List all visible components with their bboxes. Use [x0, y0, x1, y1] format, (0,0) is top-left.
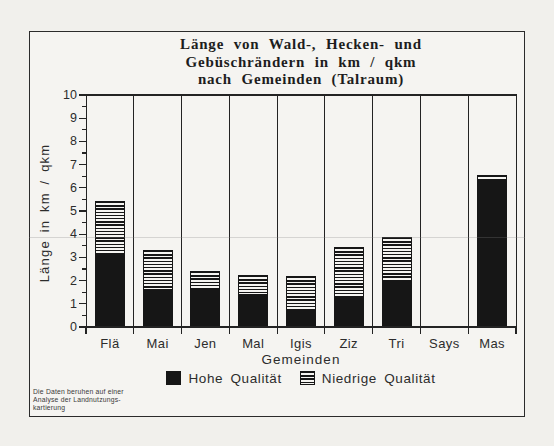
x-axis-tick: [85, 327, 86, 334]
bar-segment-hohe-qualitaet: [477, 182, 507, 327]
y-axis-tick: [79, 210, 86, 211]
x-axis-title: Gemeinden: [86, 352, 516, 367]
striped-swatch-icon: [300, 371, 315, 385]
y-tick-label: 10: [50, 88, 77, 102]
y-tick-label: 0: [50, 320, 77, 334]
bar-segment-niedrige-qualitaet: [477, 175, 507, 182]
scan-artifact-line: [29, 237, 525, 238]
y-axis-minor-tick: [82, 292, 86, 293]
y-tick-label: 6: [50, 181, 77, 195]
y-axis-tick: [79, 234, 86, 235]
y-axis-tick: [79, 164, 86, 165]
footnote-line3: kartierung: [33, 404, 124, 412]
y-tick-label: 9: [50, 111, 77, 125]
x-axis-tick: [324, 327, 325, 334]
chart-title: Länge von Wald-, Hecken- und Gebüschränd…: [110, 36, 492, 89]
y-axis-minor-tick: [82, 268, 86, 269]
bar-segment-hohe-qualitaet: [238, 295, 268, 327]
bar-segment-niedrige-qualitaet: [190, 271, 220, 290]
y-tick-label: 4: [50, 227, 77, 241]
bar-segment-niedrige-qualitaet: [286, 276, 316, 310]
y-axis-tick: [79, 187, 86, 188]
x-axis-baseline: [85, 326, 517, 328]
plot-cell-divider: [468, 95, 469, 327]
x-axis-tick: [181, 327, 182, 334]
x-tick-label: Flä: [86, 336, 134, 351]
chart-title-line3: nach Gemeinden (Talraum): [110, 71, 492, 89]
y-axis-tick: [79, 118, 86, 119]
plot-cell-divider: [420, 95, 421, 327]
y-axis-minor-tick: [82, 129, 86, 130]
plot-cell-divider: [133, 95, 134, 327]
legend: Hohe Qualität Niedrige Qualität: [86, 370, 516, 386]
solid-black-swatch-icon: [166, 371, 181, 385]
y-axis-tick: [79, 257, 86, 258]
x-tick-label: Mai: [134, 336, 182, 351]
legend-item-niedrige-qualitaet: Niedrige Qualität: [300, 371, 436, 386]
plot-cell-divider: [324, 95, 325, 327]
x-tick-label: Ziz: [325, 336, 373, 351]
y-axis-minor-tick: [82, 106, 86, 107]
y-axis-minor-tick: [82, 222, 86, 223]
y-tick-label: 3: [50, 250, 77, 264]
y-axis-minor-tick: [82, 315, 86, 316]
x-tick-label: Tri: [373, 336, 421, 351]
chart-page: Länge von Wald-, Hecken- und Gebüschränd…: [0, 0, 554, 446]
bar-segment-niedrige-qualitaet: [95, 201, 125, 256]
x-tick-label: Igis: [277, 336, 325, 351]
chart-title-line1: Länge von Wald-, Hecken- und: [110, 36, 492, 54]
bar-segment-niedrige-qualitaet: [382, 237, 412, 281]
x-axis-tick: [468, 327, 469, 334]
y-axis-tick: [79, 141, 86, 142]
bar-segment-niedrige-qualitaet: [143, 250, 173, 289]
x-tick-label: Jen: [182, 336, 230, 351]
plot-cell-divider: [277, 95, 278, 327]
plot-cell-divider: [372, 95, 373, 327]
legend-item-hohe-qualitaet: Hohe Qualität: [166, 371, 281, 386]
x-tick-label: Says: [420, 336, 468, 351]
x-tick-label: Mas: [468, 336, 516, 351]
plot-top-border: [85, 94, 517, 96]
bar-segment-niedrige-qualitaet: [238, 275, 268, 295]
bar-segment-niedrige-qualitaet: [334, 247, 364, 297]
x-tick-label: Mal: [229, 336, 277, 351]
y-axis-minor-tick: [82, 199, 86, 200]
bar-segment-hohe-qualitaet: [95, 255, 125, 327]
x-axis-tick: [420, 327, 421, 334]
y-tick-label: 7: [50, 158, 77, 172]
x-axis-tick: [515, 327, 516, 334]
plot-cell-divider: [516, 95, 517, 327]
y-axis-tick: [79, 280, 86, 281]
y-axis-minor-tick: [82, 245, 86, 246]
y-axis-tick: [79, 326, 86, 327]
bar-segment-hohe-qualitaet: [334, 297, 364, 327]
y-axis-minor-tick: [82, 152, 86, 153]
x-axis-tick: [277, 327, 278, 334]
footnote-line2: Analyse der Landnutzungs-: [33, 396, 124, 404]
bar-segment-hohe-qualitaet: [382, 281, 412, 327]
y-axis-tick: [79, 303, 86, 304]
y-tick-label: 2: [50, 274, 77, 288]
x-axis-tick: [229, 327, 230, 334]
y-tick-label: 5: [50, 204, 77, 218]
footnote: Die Daten beruhen auf einer Analyse der …: [33, 388, 124, 412]
y-axis-minor-tick: [82, 176, 86, 177]
plot-cell-divider: [181, 95, 182, 327]
y-tick-label: 8: [50, 134, 77, 148]
bar-segment-hohe-qualitaet: [143, 290, 173, 327]
plot-cell-divider: [229, 95, 230, 327]
x-axis-tick: [372, 327, 373, 334]
bar-segment-hohe-qualitaet: [286, 310, 316, 327]
y-axis-tick: [79, 94, 86, 95]
legend-label-niedrige-qualitaet: Niedrige Qualität: [322, 371, 436, 386]
legend-label-hohe-qualitaet: Hohe Qualität: [188, 371, 281, 386]
bar-segment-hohe-qualitaet: [190, 290, 220, 327]
footnote-line1: Die Daten beruhen auf einer: [33, 388, 124, 396]
chart-title-line2: Gebüschrändern in km / qkm: [110, 54, 492, 72]
x-axis-tick: [133, 327, 134, 334]
y-tick-label: 1: [50, 297, 77, 311]
